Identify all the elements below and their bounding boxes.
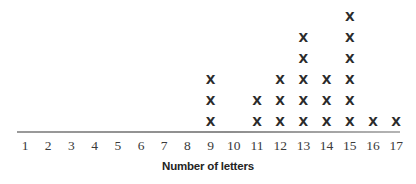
x-axis-tick-label: 12 [269,137,291,155]
dot-mark-x: X [292,48,314,69]
dot-stack: XXXXXX [339,6,361,132]
dot-plot-marks-area: XXXXXXXXXXXXXXXXXXXXXXXX [0,0,416,132]
dot-mark-x: X [200,69,222,90]
dot-stack: XXX [316,69,338,132]
dot-mark-x: X [385,111,407,132]
dot-plot-figure: XXXXXXXXXXXXXXXXXXXXXXXX 123456789101112… [0,0,416,184]
dot-mark-x: X [292,90,314,111]
dot-mark-x: X [316,69,338,90]
x-axis-tick-label: 15 [339,137,361,155]
x-axis-tick-label: 14 [316,137,338,155]
dot-mark-x: X [316,90,338,111]
x-axis-tick-label: 8 [176,137,198,155]
dot-mark-x: X [292,111,314,132]
x-axis-tick-label: 3 [60,137,82,155]
dot-mark-x: X [200,111,222,132]
dot-mark-x: X [246,90,268,111]
dot-mark-x: X [339,48,361,69]
x-axis-title: Number of letters [0,160,416,172]
x-axis-line [17,131,400,133]
x-axis-tick-label: 5 [107,137,129,155]
x-axis-tick-label: 7 [153,137,175,155]
x-axis-tick-label: 11 [246,137,268,155]
dot-stack: XXX [200,69,222,132]
dot-stack: XXXXX [292,27,314,132]
dot-mark-x: X [269,69,291,90]
dot-mark-x: X [200,90,222,111]
dot-stack: X [385,111,407,132]
dot-mark-x: X [269,90,291,111]
dot-mark-x: X [292,69,314,90]
dot-mark-x: X [339,90,361,111]
x-axis-tick-label: 6 [130,137,152,155]
dot-stack: XXX [269,69,291,132]
x-axis-tick-label: 16 [362,137,384,155]
dot-mark-x: X [316,111,338,132]
dot-mark-x: X [339,111,361,132]
dot-mark-x: X [339,27,361,48]
x-axis-tick-label: 4 [84,137,106,155]
x-axis-tick-label: 9 [200,137,222,155]
x-axis-tick-label: 10 [223,137,245,155]
dot-stack: XX [246,90,268,132]
x-axis-tick-label: 17 [385,137,407,155]
x-axis-tick-label: 1 [14,137,36,155]
x-axis-tick-label: 13 [292,137,314,155]
dot-mark-x: X [269,111,291,132]
dot-mark-x: X [246,111,268,132]
x-axis-tick-labels: 1234567891011121314151617 [0,137,416,157]
dot-mark-x: X [339,69,361,90]
x-axis-tick-label: 2 [37,137,59,155]
dot-stack: X [362,111,384,132]
dot-mark-x: X [362,111,384,132]
dot-mark-x: X [339,6,361,27]
dot-mark-x: X [292,27,314,48]
